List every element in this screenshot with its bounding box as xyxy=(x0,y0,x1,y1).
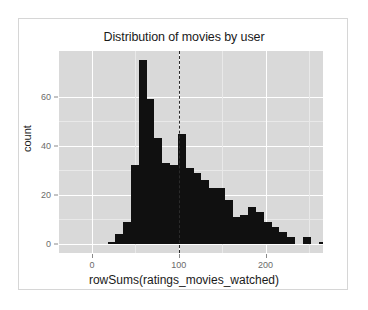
x-tick-mark-200 xyxy=(266,254,267,258)
x-tick-label-0: 0 xyxy=(89,260,94,270)
x-tick-mark-100 xyxy=(179,254,180,258)
x-axis-ticks: 0100200 xyxy=(19,19,348,290)
x-tick-label-100: 100 xyxy=(171,260,186,270)
x-tick-mark-0 xyxy=(92,254,93,258)
x-axis-title: rowSums(ratings_movies_watched) xyxy=(19,273,348,287)
y-axis-title: count xyxy=(21,125,33,152)
x-tick-label-200: 200 xyxy=(258,260,273,270)
figure-card: Distribution of movies by user 0204060 0… xyxy=(18,18,348,290)
